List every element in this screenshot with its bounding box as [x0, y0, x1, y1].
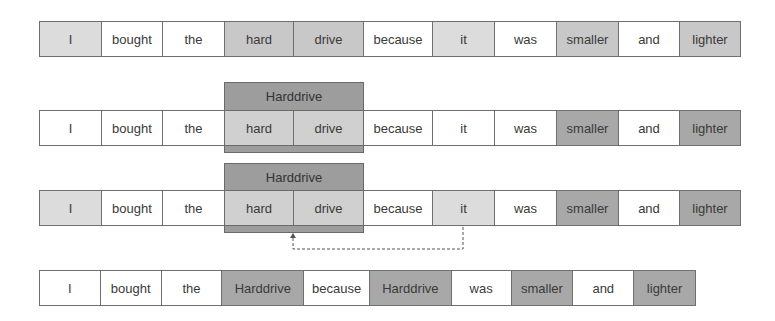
token-cell: and — [619, 22, 680, 56]
token-cell: and — [619, 191, 680, 225]
token-cell: hard — [225, 111, 294, 145]
token-cell: I — [40, 111, 102, 145]
token-cell: was — [495, 111, 557, 145]
token-cell: and — [573, 271, 634, 305]
token-row-resolved: I bought the Harddrive because Harddrive… — [39, 270, 696, 306]
token-cell: because — [364, 22, 433, 56]
token-cell: the — [163, 191, 225, 225]
token-cell: because — [364, 111, 433, 145]
token-cell: drive — [294, 111, 363, 145]
compound-inner-tokens: hard drive — [225, 110, 363, 146]
token-cell: smaller — [512, 271, 574, 305]
token-cell: I — [40, 191, 102, 225]
token-cell: bought — [102, 111, 163, 145]
token-cell: hard — [225, 191, 294, 225]
token-cell: it — [433, 191, 495, 225]
token-cell: bought — [101, 271, 162, 305]
token-cell: smaller — [557, 111, 619, 145]
token-row-merged: I bought the because it was smaller and … — [39, 110, 741, 146]
token-cell: lighter — [634, 271, 695, 305]
compound-group-harddrive: Harddrive hard drive — [224, 82, 364, 153]
token-cell: bought — [102, 22, 163, 56]
token-cell: lighter — [680, 22, 740, 56]
token-cell: the — [163, 111, 225, 145]
token-cell: I — [40, 22, 102, 56]
token-row-coreference: I bought the because it was smaller and … — [39, 190, 741, 226]
token-cell: smaller — [557, 22, 619, 56]
token-cell: drive — [294, 22, 364, 56]
token-cell: because — [304, 271, 370, 305]
token-cell: bought — [102, 191, 163, 225]
token-cell: I — [40, 271, 101, 305]
token-cell: Harddrive — [370, 271, 452, 305]
token-row-original: I bought the hard drive because it was s… — [39, 21, 741, 57]
token-cell: drive — [294, 191, 363, 225]
token-cell: lighter — [680, 111, 740, 145]
token-cell: because — [364, 191, 433, 225]
compound-group-label: Harddrive — [225, 83, 363, 109]
token-cell: Harddrive — [222, 271, 304, 305]
token-cell: the — [163, 22, 225, 56]
compound-group-label: Harddrive — [225, 164, 363, 190]
token-cell: the — [162, 271, 223, 305]
compound-inner-tokens: hard drive — [225, 190, 363, 226]
token-cell: was — [495, 22, 557, 56]
token-cell: it — [433, 22, 495, 56]
token-cell: and — [619, 111, 680, 145]
token-cell: lighter — [680, 191, 740, 225]
compound-group-harddrive: Harddrive hard drive — [224, 163, 364, 233]
token-cell: it — [433, 111, 495, 145]
token-cell: hard — [225, 22, 294, 56]
token-cell: was — [495, 191, 557, 225]
token-cell: smaller — [557, 191, 619, 225]
token-cell: was — [452, 271, 512, 305]
